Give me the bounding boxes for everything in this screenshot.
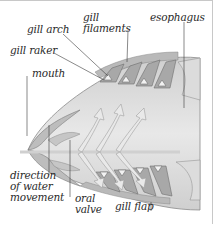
label-mouth: mouth: [32, 68, 65, 79]
label-gill-filaments-2: filaments: [83, 23, 131, 34]
label-direction-3: movement: [10, 192, 64, 203]
label-gill-flap: gill flap: [115, 201, 154, 212]
label-esophagus: esophagus: [150, 12, 205, 23]
leader-gill-filaments: [127, 30, 128, 62]
label-oral-valve-2: valve: [75, 204, 102, 215]
label-gill-arch: gill arch: [27, 24, 69, 35]
label-gill-raker: gill raker: [10, 45, 57, 56]
